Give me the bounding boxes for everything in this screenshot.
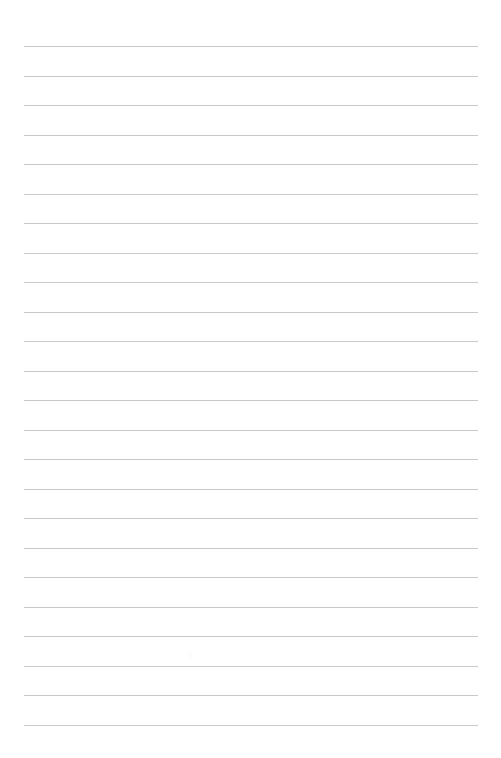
ruled-line [24, 666, 478, 667]
ruled-line [24, 518, 478, 519]
ruled-line [24, 253, 478, 254]
ruled-line [24, 430, 478, 431]
ruled-line [24, 400, 478, 401]
ruled-line [24, 577, 478, 578]
ruled-line [24, 312, 478, 313]
ruled-line [24, 607, 478, 608]
ruled-line [24, 725, 478, 726]
ruled-line [24, 489, 478, 490]
ruled-line [24, 164, 478, 165]
ruled-line [24, 223, 478, 224]
ruled-line [24, 636, 478, 637]
ruled-line [24, 135, 478, 136]
ruled-line [24, 341, 478, 342]
ruled-line [24, 695, 478, 696]
ruled-line [24, 371, 478, 372]
ruled-line [24, 46, 478, 47]
ruled-line [24, 105, 478, 106]
ruled-line [24, 459, 478, 460]
ruled-line [24, 76, 478, 77]
ruled-line [24, 282, 478, 283]
ruled-paper-page [0, 0, 501, 758]
ruled-line [24, 194, 478, 195]
ruled-line [24, 548, 478, 549]
paper-speck [188, 652, 192, 659]
